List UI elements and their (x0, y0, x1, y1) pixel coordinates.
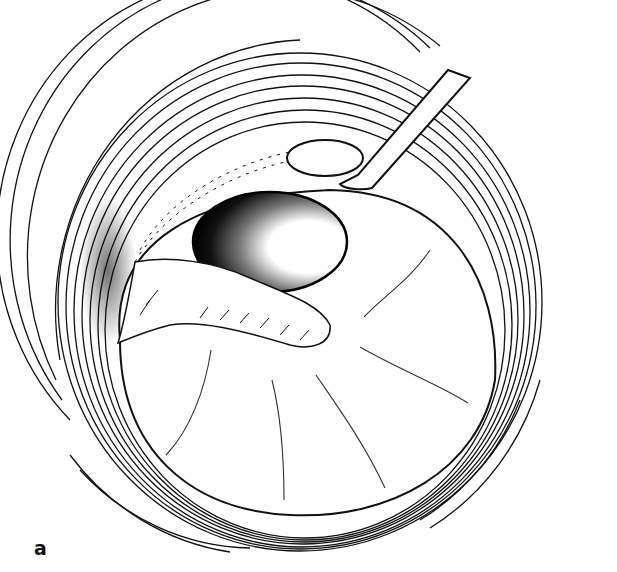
small-oval (287, 140, 363, 176)
panel-label: a (34, 537, 47, 559)
illustration: a (0, 0, 617, 572)
